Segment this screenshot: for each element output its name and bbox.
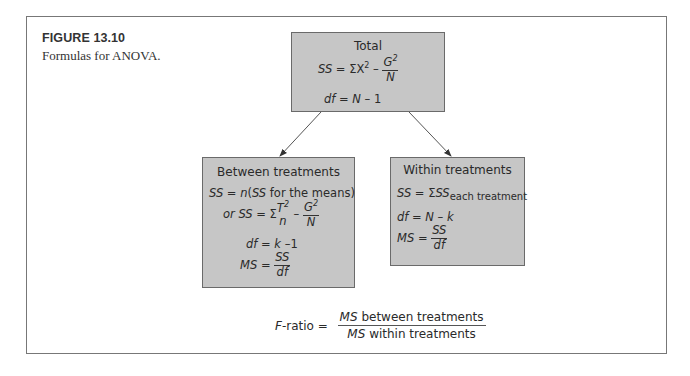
arrow-to-between	[280, 112, 321, 156]
within-treatments-box: Within treatments SS = ΣSSeach treatment…	[390, 157, 525, 266]
total-df-formula: df = N – 1	[324, 92, 381, 106]
between-ss-formula: SS = n(SS for the means)	[209, 186, 355, 200]
between-title: Between treatments	[203, 165, 354, 179]
f-ratio-numerator: MS between treatments	[338, 311, 486, 326]
ss-eq: = ΣX	[332, 62, 364, 76]
n-den: N	[382, 71, 398, 84]
f-ratio-fraction: MS between treatments MS within treatmen…	[338, 311, 486, 340]
minus: –	[369, 62, 382, 76]
df-symbol: df	[324, 92, 335, 106]
total-ss-formula: SS = ΣX2 – G2N	[318, 55, 398, 83]
g2-over-n: G2N	[382, 55, 398, 83]
g2-num: G2	[382, 55, 398, 71]
between-treatments-box: Between treatments SS = n(SS for the mea…	[202, 157, 355, 288]
within-title: Within treatments	[391, 163, 524, 177]
figure-canvas: FIGURE 13.10 Formulas for ANOVA. Total S…	[0, 0, 690, 376]
df-eq: =	[335, 92, 352, 106]
between-df-formula: df = k –1	[246, 237, 298, 251]
df-N: N	[352, 92, 361, 106]
within-df-formula: df = N – k	[397, 210, 454, 224]
f-ratio-denominator: MS within treatments	[338, 326, 486, 340]
total-box: Total SS = ΣX2 – G2N df = N – 1	[291, 32, 445, 112]
total-title: Total	[292, 39, 444, 53]
f-ratio-label: -ratio =	[282, 319, 332, 333]
ss-symbol: SS	[318, 62, 332, 76]
arrow-to-within	[409, 112, 451, 156]
within-ss-formula: SS = ΣSSeach treatment	[397, 186, 527, 202]
within-ms-formula: MS = SSdf	[397, 225, 447, 251]
between-ss-alt-formula: or SS = ΣT2n – G2N	[223, 200, 319, 228]
f-symbol: F	[275, 319, 282, 333]
df-tail: – 1	[361, 92, 381, 106]
f-ratio-formula: F-ratio = MS between treatments MS withi…	[275, 311, 486, 340]
between-ms-formula: MS = SSdf	[240, 252, 290, 278]
